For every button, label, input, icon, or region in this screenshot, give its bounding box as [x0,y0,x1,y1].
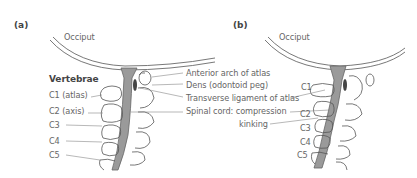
label-transverse-ligament: Transverse ligament of atlas [186,94,299,102]
occiput-outline [50,40,215,70]
label-anterior-arch: Anterior arch of atlas [186,69,270,77]
vertebra-c1-b [310,84,334,97]
label-kinking: kinking [239,120,268,128]
panel-label-b: (b) [233,20,248,30]
label-c3: C3 [49,121,60,129]
label-c1-atlas: C1 (atlas) [49,91,88,99]
spinal-cord-b [314,66,346,168]
label-spinal-cord-compression: Spinal cord: compression [186,107,287,115]
panel-a-drawing [50,37,215,170]
label-dens: Dens (odontoid peg) [186,81,268,89]
label-c4-b: C4 [300,138,311,146]
vertebra-c1 [100,86,121,101]
label-c2-b: C2 [300,110,311,118]
label-c5: C5 [49,151,60,159]
dens [133,79,137,91]
vertebrae-heading: Vertebrae [49,75,99,84]
label-c3-b: C3 [300,124,311,132]
panel-b-drawing [265,37,405,170]
label-c2-axis: C2 (axis) [49,107,84,115]
vertebra-c3 [102,125,121,140]
panel-label-a: (a) [14,20,28,30]
dens-b [343,79,347,91]
vertebra-c2 [101,104,122,122]
occiput-label-b: Occiput [279,33,310,41]
label-c1-b: C1 [301,83,312,91]
occiput-label-a: Occiput [64,33,95,41]
anterior-arch-b [366,74,374,86]
label-c5-b: C5 [297,151,308,159]
label-c4: C4 [49,137,60,145]
